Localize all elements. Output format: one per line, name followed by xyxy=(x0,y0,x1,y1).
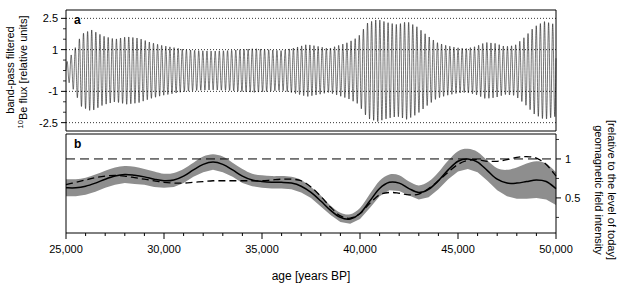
panel-a: 2.51-1-2.5 a xyxy=(39,10,556,131)
panel-a-y-tick-label: 1 xyxy=(52,44,58,56)
panel-a-ylabel-line1: band-pass filtered xyxy=(4,26,16,113)
panel-b-y-tick-label: 1 xyxy=(565,153,571,165)
panel-a-ylabel-group: band-pass filtered 10Be flux [relative u… xyxy=(4,16,29,129)
x-axis-tick-label: 50,000 xyxy=(539,243,573,255)
panel-b-ylabel-line1: geomagnetic field intensity xyxy=(593,125,605,255)
panel-b: 10.5 b xyxy=(66,134,580,239)
panel-a-ylabel-superscript: 10 xyxy=(16,120,25,128)
panel-b-y-tick-label: 0.5 xyxy=(565,192,580,204)
panel-a-waveform xyxy=(66,20,556,121)
x-axis-tick-label: 35,000 xyxy=(245,243,279,255)
panel-b-ylabel-line2: [relative to the level of today] xyxy=(606,120,618,260)
x-axis-tick-label: 45,000 xyxy=(441,243,475,255)
panel-a-ylabel-main: Be flux [relative units] xyxy=(17,16,29,121)
x-axis-tick-label: 30,000 xyxy=(147,243,181,255)
panel-b-ylabel-group: geomagnetic field intensity [relative to… xyxy=(593,120,618,260)
panel-b-label: b xyxy=(74,137,81,151)
chart-svg: band-pass filtered 10Be flux [relative u… xyxy=(0,0,620,286)
panel-a-ylabel-line2: 10Be flux [relative units] xyxy=(16,16,29,129)
x-axis-tick-label: 40,000 xyxy=(343,243,377,255)
panel-b-x-ticks xyxy=(66,233,556,239)
x-axis-tick-label: 25,000 xyxy=(49,243,83,255)
panel-b-y-ticks: 10.5 xyxy=(556,139,580,217)
panel-a-y-tick-label: -1 xyxy=(48,85,58,97)
x-axis-title: age [years BP] xyxy=(272,269,351,283)
panel-a-label: a xyxy=(74,13,81,27)
x-axis-tick-labels: 25,00030,00035,00040,00045,00050,000 xyxy=(49,243,573,255)
panel-a-y-ticks: 2.51-1-2.5 xyxy=(39,12,66,128)
panel-a-y-tick-label: 2.5 xyxy=(43,12,58,24)
panel-a-y-tick-label: -2.5 xyxy=(39,117,58,129)
figure-root: band-pass filtered 10Be flux [relative u… xyxy=(0,0,620,286)
